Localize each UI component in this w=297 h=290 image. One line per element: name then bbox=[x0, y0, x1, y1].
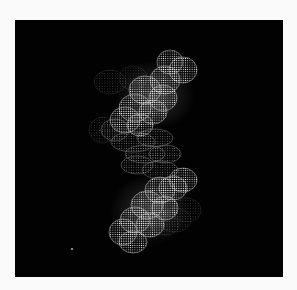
molecule-viewport bbox=[15, 20, 283, 277]
stray-dot bbox=[71, 248, 73, 250]
molecule-surface bbox=[15, 20, 283, 277]
